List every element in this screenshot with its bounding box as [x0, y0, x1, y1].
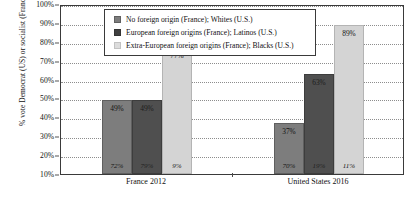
y-axis-tick-label: 10% [14, 171, 54, 179]
y-axis-tick-mark [55, 5, 59, 6]
y-axis-tick-label: 90% [14, 20, 54, 28]
legend-swatch-icon [114, 42, 121, 49]
legend-item: Extra-European foreign origins (France);… [110, 39, 310, 52]
bar: 89%11% [334, 25, 364, 174]
y-axis-tick-mark [55, 156, 59, 157]
bar-value-label: 37% [275, 128, 303, 136]
x-axis-category-label: France 2012 [60, 177, 232, 187]
x-axis-tick-labels: France 2012United States 2016 [60, 177, 404, 195]
bar: 49%79% [132, 100, 162, 174]
y-axis-tick-mark [55, 137, 59, 138]
bar-base-label: 9% [163, 162, 191, 170]
y-axis-tick-label: 100% [14, 1, 54, 9]
legend-item-label: Extra-European foreign origins (France);… [126, 41, 294, 50]
y-axis-tick-label: 60% [14, 77, 54, 85]
y-axis-tick-mark [55, 42, 59, 43]
bar: 37%70% [274, 123, 304, 174]
bar-base-label: 79% [133, 162, 161, 170]
y-axis-tick-label: 20% [14, 152, 54, 160]
x-axis-tick-mark [232, 173, 233, 177]
y-axis-tick-mark [55, 61, 59, 62]
bar-value-label: 63% [305, 79, 333, 87]
legend-swatch-icon [114, 16, 121, 23]
y-axis-tick-label: 50% [14, 96, 54, 104]
legend-item-label: European foreign origins (France); Latin… [126, 28, 277, 37]
y-axis-tick-label: 30% [14, 133, 54, 141]
y-axis-tick-mark [55, 175, 59, 176]
y-axis-tick-label: 70% [14, 58, 54, 66]
y-axis-tick-label: 80% [14, 39, 54, 47]
bar-base-label: 72% [103, 162, 131, 170]
bar-value-label: 49% [133, 105, 161, 113]
bar-chart: % vote Democrat (US) or socialist (Franc… [0, 0, 412, 201]
y-axis-tick-mark [55, 23, 59, 24]
y-axis-tick-mark [55, 80, 59, 81]
legend-swatch-icon [114, 29, 121, 36]
legend-item: No foreign origin (France); Whites (U.S.… [110, 13, 310, 26]
y-axis-tick-label: 40% [14, 115, 54, 123]
bar-base-label: 70% [275, 162, 303, 170]
bar-base-label: 19% [305, 162, 333, 170]
bar: 49%72% [102, 100, 132, 174]
y-axis-tick-mark [55, 118, 59, 119]
legend-item-label: No foreign origin (France); Whites (U.S.… [126, 15, 253, 24]
bar: 63%19% [304, 74, 334, 174]
x-axis-category-label: United States 2016 [232, 177, 404, 187]
legend-item: European foreign origins (France); Latin… [110, 26, 310, 39]
chart-legend: No foreign origin (France); Whites (U.S.… [104, 9, 316, 56]
bar-base-label: 11% [335, 162, 363, 170]
bar: 77%9% [162, 47, 192, 174]
y-axis-tick-mark [55, 99, 59, 100]
y-axis-tick-labels: 100%90%80%70%60%50%40%30%20%10% [14, 5, 54, 175]
bar-value-label: 49% [103, 105, 131, 113]
bar-value-label: 89% [335, 30, 363, 38]
